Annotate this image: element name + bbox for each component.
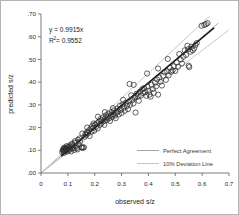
x-tick-label: 0.2 xyxy=(90,180,99,187)
x-tick-label: 0.4 xyxy=(144,180,153,187)
data-point xyxy=(165,56,170,61)
x-axis-ticks: 00.10.20.30.40.50.60.7 xyxy=(39,173,234,187)
y-axis-title: predicted s/z xyxy=(7,74,15,114)
data-point xyxy=(156,92,161,97)
y-tick-label: .00 xyxy=(27,169,36,176)
legend-label-perfect-agreement: Perfect Agreement xyxy=(163,148,211,154)
y-tick-label: .50 xyxy=(27,56,36,63)
y-tick-label: .70 xyxy=(27,10,36,17)
y-tick-label: .60 xyxy=(27,33,36,40)
x-tick-label: 0.6 xyxy=(198,180,207,187)
regression-fit-line xyxy=(61,28,214,156)
y-tick-label: .30 xyxy=(27,101,36,108)
data-point xyxy=(156,66,161,71)
y-tick-label: .40 xyxy=(27,78,36,85)
y-tick-label: .10 xyxy=(27,146,36,153)
chart-legend: Perfect Agreement 10% Deviation Line xyxy=(137,148,213,167)
chart-canvas: 00.10.20.30.40.50.60.7 .00.10.20.30.40.5… xyxy=(0,0,239,215)
legend-label-deviation-line: 10% Deviation Line xyxy=(163,161,213,167)
x-tick-label: 0 xyxy=(39,180,43,187)
regression-equation-label: y = 0.9915x xyxy=(49,26,84,34)
data-point xyxy=(131,101,136,106)
data-point xyxy=(144,71,149,76)
scatter-chart-figure: 00.10.20.30.40.50.60.7 .00.10.20.30.40.5… xyxy=(0,0,239,215)
r-squared-value: = 0.9552 xyxy=(56,37,82,44)
y-axis-ticks: .00.10.20.30.40.50.60.70 xyxy=(27,10,41,176)
x-tick-label: 0.1 xyxy=(64,180,73,187)
r-squared-label: R 2 = 0.9552 xyxy=(49,36,82,44)
x-axis-title: observed s/z xyxy=(115,198,155,205)
data-point xyxy=(133,110,138,115)
y-tick-label: .20 xyxy=(27,124,36,131)
x-tick-label: 0.7 xyxy=(225,180,234,187)
x-tick-label: 0.3 xyxy=(117,180,126,187)
x-tick-label: 0.5 xyxy=(171,180,180,187)
